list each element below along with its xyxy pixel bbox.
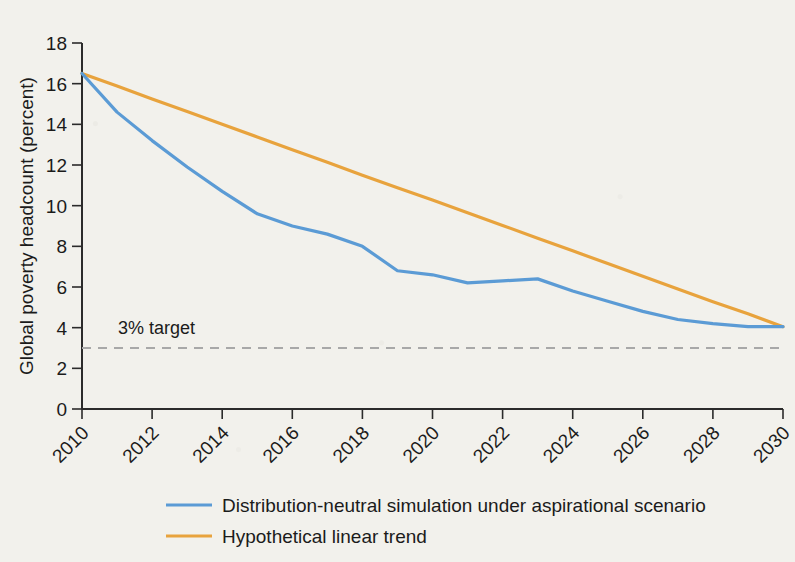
target-label: 3% target xyxy=(118,318,195,338)
x-tick-label: 2020 xyxy=(399,422,444,467)
x-tick-label: 2028 xyxy=(679,422,724,467)
data-series-group xyxy=(82,74,783,327)
y-axis-ticks: 024681012141618 xyxy=(46,33,82,420)
x-tick-label: 2024 xyxy=(539,422,584,467)
x-tick-label: 2018 xyxy=(328,422,373,467)
series-line-hypothetical-linear-trend xyxy=(82,74,783,327)
x-tick-label: 2026 xyxy=(609,422,654,467)
x-tick-label: 2030 xyxy=(749,422,794,467)
y-tick-label: 0 xyxy=(56,399,67,420)
y-axis-title: Global poverty headcount (percent) xyxy=(16,77,37,375)
y-tick-label: 6 xyxy=(56,277,67,298)
y-tick-label: 12 xyxy=(46,155,67,176)
x-tick-label: 2012 xyxy=(118,422,163,467)
x-tick-label: 2022 xyxy=(469,422,514,467)
legend-label-linear-trend: Hypothetical linear trend xyxy=(222,526,427,547)
poverty-headcount-line-chart: 024681012141618 201020122014201620182020… xyxy=(0,0,795,562)
x-tick-label: 2016 xyxy=(258,422,303,467)
x-tick-label: 2014 xyxy=(188,422,233,467)
y-tick-label: 4 xyxy=(56,318,67,339)
y-tick-label: 8 xyxy=(56,236,67,257)
y-tick-label: 18 xyxy=(46,33,67,54)
legend-label-simulation: Distribution-neutral simulation under as… xyxy=(222,495,706,516)
chart-axes xyxy=(82,43,783,409)
y-tick-label: 10 xyxy=(46,196,67,217)
y-tick-label: 14 xyxy=(46,114,68,135)
chart-legend: Distribution-neutral simulation under as… xyxy=(166,495,706,547)
x-tick-label: 2010 xyxy=(48,422,93,467)
x-axis-ticks: 2010201220142016201820202022202420262028… xyxy=(48,409,794,467)
y-tick-label: 16 xyxy=(46,74,67,95)
target-annotation: 3% target xyxy=(82,318,783,348)
y-tick-label: 2 xyxy=(56,358,67,379)
